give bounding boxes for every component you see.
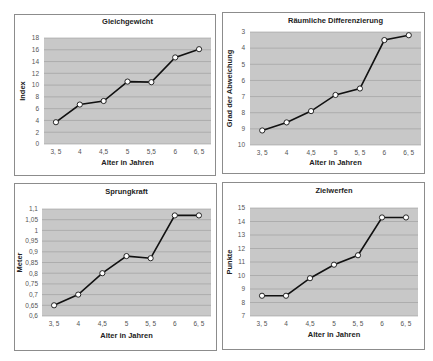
y-tick-label: 12 bbox=[238, 245, 246, 252]
data-point-marker bbox=[77, 102, 82, 107]
y-tick-label: 1 bbox=[34, 227, 38, 234]
data-point-marker bbox=[382, 37, 387, 42]
y-tick-label: 6 bbox=[35, 105, 39, 112]
data-point-marker bbox=[379, 215, 384, 220]
y-tick-label: 0,6 bbox=[29, 312, 38, 319]
chart-title: Sprungkraft bbox=[105, 187, 148, 196]
chart-title: Gleichgewicht bbox=[102, 17, 153, 26]
x-tick-label: 5, 5 bbox=[353, 320, 364, 327]
y-tick-label: 8 bbox=[241, 299, 245, 306]
x-tick-label: 6, 5 bbox=[194, 148, 205, 155]
y-tick-label: 14 bbox=[32, 58, 40, 65]
x-tick-label: 4 bbox=[284, 320, 288, 327]
data-point-marker bbox=[283, 293, 288, 298]
x-tick-label: 5 bbox=[332, 320, 336, 327]
data-point-marker bbox=[284, 120, 289, 125]
y-tick-label: 4 bbox=[241, 44, 245, 51]
y-axis-label: Meter bbox=[15, 252, 24, 272]
data-point-marker bbox=[406, 33, 411, 38]
y-tick-label: 0,8 bbox=[29, 270, 38, 277]
x-tick-label: 4 bbox=[76, 320, 80, 327]
y-tick-label: 6 bbox=[241, 77, 245, 84]
y-tick-label: 11 bbox=[238, 258, 245, 265]
y-tick-label: 7 bbox=[241, 312, 245, 319]
x-tick-label: 6, 5 bbox=[401, 320, 412, 327]
y-tick-label: 14 bbox=[238, 218, 246, 225]
x-tick-label: 5 bbox=[125, 320, 129, 327]
data-point-marker bbox=[172, 213, 177, 218]
y-tick-label: 4 bbox=[35, 117, 39, 124]
y-tick-label: 8 bbox=[241, 109, 245, 116]
y-tick-label: 7 bbox=[241, 93, 245, 100]
y-tick-label: 10 bbox=[238, 141, 246, 148]
data-point-marker bbox=[357, 86, 362, 91]
y-tick-label: 9 bbox=[241, 285, 245, 292]
data-point-marker bbox=[51, 303, 56, 308]
y-tick-label: 13 bbox=[238, 231, 246, 238]
x-tick-label: 6, 5 bbox=[194, 320, 205, 327]
y-tick-label: 12 bbox=[32, 70, 40, 77]
data-point-marker bbox=[76, 292, 81, 297]
x-tick-label: 4,5 bbox=[307, 149, 316, 156]
y-tick-label: 9 bbox=[241, 125, 245, 132]
data-point-marker bbox=[101, 98, 106, 103]
y-tick-label: 0,9 bbox=[29, 248, 38, 255]
data-point-marker bbox=[196, 47, 201, 52]
plot-area bbox=[250, 32, 421, 145]
data-point-marker bbox=[148, 256, 153, 261]
y-axis-label: Punkte bbox=[225, 249, 234, 274]
x-tick-label: 5, 5 bbox=[145, 320, 156, 327]
y-tick-label: 3 bbox=[241, 28, 245, 35]
y-tick-label: 16 bbox=[32, 46, 40, 53]
data-point-marker bbox=[125, 79, 130, 84]
x-tick-label: 3, 5 bbox=[49, 320, 60, 327]
x-tick-label: 3, 5 bbox=[257, 320, 268, 327]
x-tick-label: 4,5 bbox=[305, 320, 314, 327]
chart-1: 3456789103, 544,555, 566, 5Räumliche Dif… bbox=[225, 16, 421, 167]
y-tick-label: 0,65 bbox=[25, 302, 38, 309]
data-point-marker bbox=[100, 271, 105, 276]
y-tick-label: 18 bbox=[32, 34, 40, 41]
y-tick-label: 0,75 bbox=[25, 280, 38, 287]
x-tick-label: 6 bbox=[383, 149, 387, 156]
x-tick-label: 4,5 bbox=[98, 320, 107, 327]
chart-3: 7891011121314153, 544,555, 566, 5Zielwer… bbox=[225, 186, 418, 339]
y-tick-label: 0,85 bbox=[25, 259, 38, 266]
y-tick-label: 0,95 bbox=[25, 237, 38, 244]
data-point-marker bbox=[196, 213, 201, 218]
x-tick-label: 5,5 bbox=[147, 148, 156, 155]
x-tick-label: 5 bbox=[126, 148, 130, 155]
x-tick-label: 3, 5 bbox=[257, 149, 268, 156]
chart-0: 0246810121416183, 544,555,566, 5Gleichge… bbox=[18, 17, 211, 167]
data-point-marker bbox=[259, 293, 264, 298]
chart-2: 0,60,650,70,750,80,850,90,9511,051,13, 5… bbox=[15, 187, 211, 340]
charts-canvas: 0246810121416183, 544,555,566, 5Gleichge… bbox=[0, 0, 433, 361]
chart-title: Zielwerfen bbox=[315, 186, 353, 195]
y-tick-label: 1,1 bbox=[29, 205, 38, 212]
y-tick-label: 15 bbox=[238, 204, 246, 211]
data-point-marker bbox=[149, 80, 154, 85]
data-point-marker bbox=[333, 92, 338, 97]
x-tick-label: 4 bbox=[285, 149, 289, 156]
chart-title: Räumliche Differenzierung bbox=[288, 16, 383, 25]
y-axis-label: Index bbox=[18, 80, 27, 100]
x-axis-label: Alter in Jahren bbox=[101, 158, 154, 167]
data-point-marker bbox=[355, 253, 360, 258]
y-tick-label: 10 bbox=[238, 272, 246, 279]
x-axis-label: Alter in Jahren bbox=[100, 331, 153, 340]
data-point-marker bbox=[124, 253, 129, 258]
x-axis-label: Alter in Jahren bbox=[308, 330, 361, 339]
x-tick-label: 6 bbox=[380, 320, 384, 327]
data-point-marker bbox=[260, 128, 265, 133]
x-tick-label: 6, 5 bbox=[403, 149, 414, 156]
data-point-marker bbox=[403, 215, 408, 220]
y-tick-label: 2 bbox=[35, 129, 39, 136]
data-point-marker bbox=[173, 55, 178, 60]
y-axis-label: Grad der Abweichung bbox=[225, 49, 234, 127]
y-tick-label: 5 bbox=[241, 61, 245, 68]
x-tick-label: 5 bbox=[334, 149, 338, 156]
data-point-marker bbox=[331, 262, 336, 267]
data-point-marker bbox=[53, 120, 58, 125]
data-point-marker bbox=[307, 276, 312, 281]
y-tick-label: 8 bbox=[35, 93, 39, 100]
